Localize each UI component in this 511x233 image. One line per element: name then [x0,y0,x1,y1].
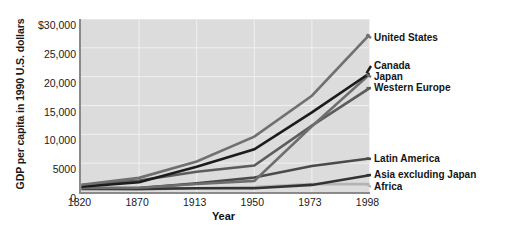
x-tick-label: 1998 [345,195,391,209]
y-axis-tick-labels: $30,00025,00020,00015,00010,00050000 [20,12,76,198]
series-lines-svg [81,19,370,192]
y-tick-label: 15,000 [20,106,76,118]
series-label-latin-america: Latin America [374,153,440,164]
x-tick-label: 1950 [229,195,275,209]
series-label-japan: Japan [374,71,403,82]
series-label-western-europe: Western Europe [374,82,451,93]
x-axis-tick-labels: 182018701913195019731998 [60,195,400,210]
gdp-per-capita-line-chart: GDP per capita in 1990 U.S. dollars $30,… [0,0,511,233]
y-tick-label: $30,000 [20,19,76,31]
y-tick-label: 20,000 [20,77,76,89]
y-tick-label: 5000 [20,163,76,175]
x-tick-label: 1870 [114,195,160,209]
x-axis-title: Year [79,210,368,223]
x-tick-label: 1973 [287,195,333,209]
y-tick-label: 10,000 [20,134,76,146]
series-line-united-states [82,35,370,185]
y-tick-label: 25,000 [20,48,76,60]
series-label-canada: Canada [374,60,410,71]
x-tick-label: 1820 [57,195,103,209]
series-label-africa: Africa [374,181,402,192]
series-line-japan [82,74,370,188]
series-label-united-states: United States [374,32,438,43]
plot-area [79,19,370,194]
x-tick-label: 1913 [172,195,218,209]
series-label-asia-excluding-japan: Asia excluding Japan [374,169,476,180]
